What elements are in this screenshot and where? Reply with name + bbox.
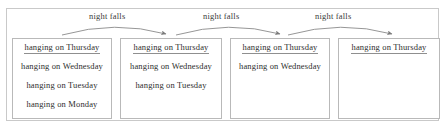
state-box-0[interactable]: hanging on Thursday hanging on Wednesday… (12, 38, 112, 119)
arrow-2-label: night falls (315, 11, 351, 21)
state-line-text: hanging on Tuesday (25, 81, 98, 91)
state-box-1[interactable]: hanging on Thursday hanging on Wednesday… (120, 38, 222, 119)
state-box-1-lines: hanging on Thursday hanging on Wednesday… (121, 39, 221, 100)
state-line: hanging on Wednesday (121, 62, 221, 81)
state-line: hanging on Tuesday (13, 81, 111, 100)
state-box-3-lines: hanging on Thursday (339, 39, 439, 62)
state-box-3[interactable]: hanging on Thursday (338, 38, 440, 119)
state-line-text: hanging on Tuesday (134, 81, 207, 91)
state-line-text: hanging on Monday (25, 100, 98, 110)
state-box-2-lines: hanging on Thursday hanging on Wednesday (231, 39, 329, 81)
arrow-1-label: night falls (203, 11, 239, 21)
state-line-text: hanging on Thursday (133, 43, 210, 54)
state-line: hanging on Wednesday (231, 62, 329, 81)
state-line: hanging on Monday (13, 100, 111, 119)
state-line: hanging on Thursday (231, 43, 329, 62)
state-line-text: hanging on Wednesday (238, 62, 322, 72)
state-line-text: hanging on Thursday (24, 43, 101, 54)
state-line-text: hanging on Thursday (242, 43, 319, 54)
state-line: hanging on Thursday (13, 43, 111, 62)
state-line-text: hanging on Wednesday (20, 62, 104, 72)
arrow-0-label: night falls (89, 11, 125, 21)
state-line: hanging on Thursday (121, 43, 221, 62)
state-line: hanging on Tuesday (121, 81, 221, 100)
diagram-canvas: night falls night falls night falls hang… (0, 0, 447, 132)
state-line: hanging on Thursday (339, 43, 439, 62)
state-box-2[interactable]: hanging on Thursday hanging on Wednesday (230, 38, 330, 119)
state-box-0-lines: hanging on Thursday hanging on Wednesday… (13, 39, 111, 119)
state-line: hanging on Wednesday (13, 62, 111, 81)
state-line-text: hanging on Thursday (351, 43, 428, 54)
state-line-text: hanging on Wednesday (129, 62, 213, 72)
